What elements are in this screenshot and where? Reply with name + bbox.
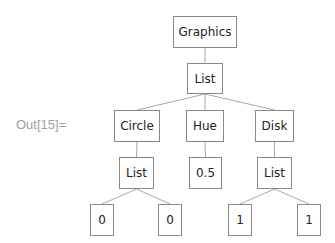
tree-node-0: 0 — [90, 204, 114, 236]
tree-node-0-5: 0.5 — [189, 157, 222, 189]
tree-edge — [205, 94, 275, 110]
tree-node-list: List — [119, 157, 154, 189]
tree-node-disk: Disk — [255, 110, 294, 142]
tree-node-0: 0 — [158, 204, 182, 236]
tree-edge — [137, 142, 138, 157]
tree-edge — [240, 189, 275, 204]
tree-edge — [137, 94, 205, 110]
tree-node-1: 1 — [228, 204, 252, 236]
tree-node-circle: Circle — [114, 110, 160, 142]
tree-edge — [137, 189, 171, 204]
tree-edge — [275, 189, 310, 204]
tree-node-1: 1 — [297, 204, 321, 236]
tree-node-hue: Hue — [186, 110, 224, 142]
tree-node-list: List — [257, 157, 292, 189]
tree-edge — [205, 142, 206, 157]
tree-node-list: List — [187, 63, 223, 94]
tree-node-graphics: Graphics — [173, 16, 237, 48]
tree-edge — [102, 189, 137, 204]
